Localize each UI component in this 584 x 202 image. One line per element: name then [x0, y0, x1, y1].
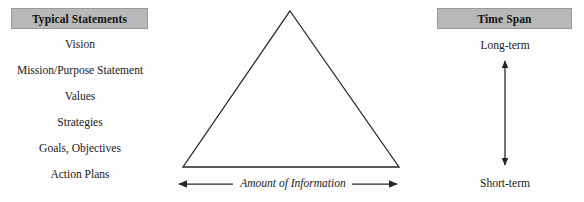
triangle-shape [183, 11, 399, 167]
time-span-header-box: Time Span [437, 8, 572, 29]
list-item-values: Values [0, 90, 160, 116]
amount-of-information-caption: Amount of Information [233, 177, 353, 189]
typical-statements-header-label: Typical Statements [32, 13, 127, 25]
list-item-goals-objectives: Goals, Objectives [0, 142, 160, 168]
long-term-label: Long-term [435, 39, 575, 51]
list-item-mission-purpose-statement: Mission/Purpose Statement [0, 64, 160, 90]
short-term-label: Short-term [435, 177, 575, 189]
list-item-strategies: Strategies [0, 116, 160, 142]
list-item-action-plans: Action Plans [0, 168, 160, 194]
typical-statements-list: Vision Mission/Purpose Statement Values … [0, 38, 160, 194]
list-item-vision: Vision [0, 38, 160, 64]
typical-statements-header-box: Typical Statements [11, 8, 148, 29]
time-span-header-label: Time Span [477, 13, 531, 25]
figure-canvas: Typical Statements Vision Mission/Purpos… [0, 0, 584, 202]
